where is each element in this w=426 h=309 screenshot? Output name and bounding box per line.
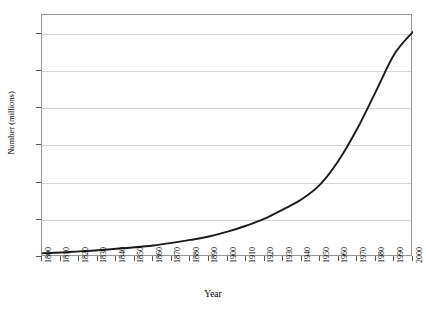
x-tick-label-1930: 1930 <box>286 247 294 263</box>
x-tick-mark-1800 <box>41 256 42 261</box>
x-tick-label-1820: 1820 <box>82 247 90 263</box>
x-tick-mark-1890 <box>208 256 209 261</box>
x-tick-mark-2000 <box>412 256 413 261</box>
x-tick-mark-1990 <box>393 256 394 261</box>
chart-container: 0102030405060 18001810182018301840185018… <box>0 0 426 309</box>
x-tick-mark-1860 <box>152 256 153 261</box>
x-tick-mark-1830 <box>97 256 98 261</box>
x-tick-label-1980: 1980 <box>378 247 386 263</box>
x-tick-label-1890: 1890 <box>211 247 219 263</box>
x-tick-mark-1910 <box>245 256 246 261</box>
x-tick-mark-1880 <box>189 256 190 261</box>
x-tick-label-1990: 1990 <box>397 247 405 263</box>
x-tick-mark-1820 <box>78 256 79 261</box>
x-tick-label-1950: 1950 <box>323 247 331 263</box>
x-tick-label-1910: 1910 <box>249 247 257 263</box>
x-tick-label-1880: 1880 <box>193 247 201 263</box>
x-tick-label-1870: 1870 <box>174 247 182 263</box>
x-tick-label-1830: 1830 <box>100 247 108 263</box>
x-tick-label-1860: 1860 <box>156 247 164 263</box>
x-tick-mark-1960 <box>338 256 339 261</box>
x-tick-mark-1980 <box>375 256 376 261</box>
x-tick-mark-1930 <box>282 256 283 261</box>
x-axis-title: Year <box>0 289 426 299</box>
x-tick-label-1850: 1850 <box>137 247 145 263</box>
x-tick-mark-1900 <box>227 256 228 261</box>
x-axis: 1800181018201830184018501860187018801890… <box>0 0 426 309</box>
x-tick-mark-1840 <box>115 256 116 261</box>
x-tick-label-1900: 1900 <box>230 247 238 263</box>
x-tick-mark-1920 <box>264 256 265 261</box>
x-tick-mark-1940 <box>301 256 302 261</box>
x-tick-label-2000: 2000 <box>416 247 424 263</box>
x-tick-mark-1950 <box>319 256 320 261</box>
x-tick-label-1840: 1840 <box>119 247 127 263</box>
x-tick-mark-1850 <box>134 256 135 261</box>
x-tick-label-1800: 1800 <box>45 247 53 263</box>
x-tick-mark-1970 <box>356 256 357 261</box>
x-tick-label-1970: 1970 <box>360 247 368 263</box>
x-tick-mark-1810 <box>60 256 61 261</box>
x-tick-label-1960: 1960 <box>341 247 349 263</box>
x-tick-label-1940: 1940 <box>304 247 312 263</box>
x-tick-mark-1870 <box>171 256 172 261</box>
x-tick-label-1920: 1920 <box>267 247 275 263</box>
y-axis-title: Number (millions) <box>6 63 16 183</box>
x-tick-label-1810: 1810 <box>63 247 71 263</box>
